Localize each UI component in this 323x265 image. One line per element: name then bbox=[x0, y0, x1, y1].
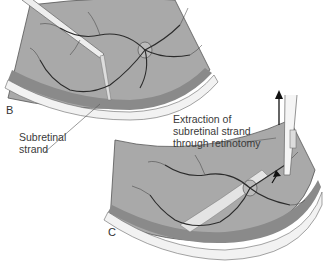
panel-label-b: B bbox=[6, 104, 13, 116]
annotation-c-line-2: subretinal strand bbox=[173, 125, 261, 137]
annotation-c: Extraction of subretinal strand through … bbox=[173, 113, 261, 149]
panel-b-fundus bbox=[5, 0, 218, 120]
annotation-b-line-1: Subretinal bbox=[19, 131, 66, 143]
annotation-c-line-3: through retinotomy bbox=[173, 137, 261, 149]
annotation-c-line-1: Extraction of bbox=[173, 113, 261, 125]
annotation-b: Subretinal strand bbox=[19, 131, 66, 155]
panel-label-c: C bbox=[108, 226, 116, 238]
annotation-b-line-2: strand bbox=[19, 143, 66, 155]
